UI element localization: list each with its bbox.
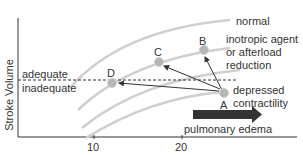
x-tick-label-10: 10 [87,141,99,153]
pulmonary-edema-band [193,110,253,119]
pulmonary-edema-label: pulmonary edema [184,123,272,135]
point-c [155,58,164,67]
curve-label-inotropic-1: inotropic agent [226,33,298,45]
point-label-b: B [199,35,206,47]
x-tick-label-20: 20 [175,141,187,153]
point-label-a: A [220,99,227,111]
inadequate-label: inadequate [22,82,76,94]
point-label-c: C [154,46,162,58]
curve-label-normal: normal [236,15,270,27]
y-axis-label: Stroke Volume [2,50,16,140]
adequate-label: adequate [22,68,68,80]
curve-label-inotropic-2: or afterload [226,46,282,58]
curve-label-depressed-1: depressed [233,84,284,96]
point-a [220,89,229,98]
point-d [108,79,117,88]
curve-label-inotropic-3: reduction [226,59,271,71]
point-label-d: D [107,67,115,79]
curve-label-depressed-2: contractility [233,97,288,109]
